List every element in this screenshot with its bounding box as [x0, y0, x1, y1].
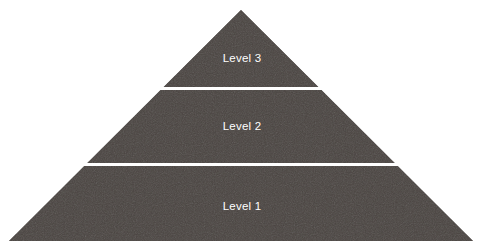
pyramid-shape [0, 0, 484, 247]
pyramid-texture-overlay [0, 0, 484, 247]
pyramid-diagram-canvas: Level 3 Level 2 Level 1 [0, 0, 484, 247]
